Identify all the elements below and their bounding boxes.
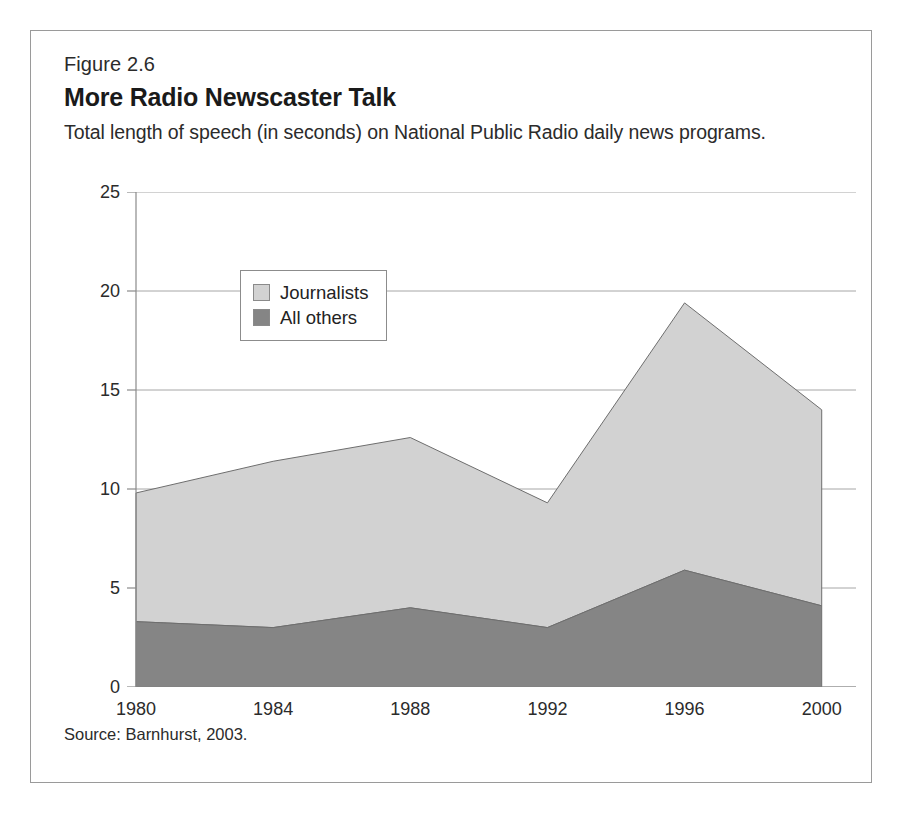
y-axis-tick-label: 25 — [80, 182, 120, 203]
legend-item-journalists[interactable]: Journalists — [253, 280, 368, 305]
figure-frame: Figure 2.6 More Radio Newscaster Talk To… — [30, 30, 872, 783]
y-axis-tick-label: 0 — [80, 677, 120, 698]
chart-plot-area: 0510152025198019841988199219962000 — [106, 192, 856, 687]
y-axis-tick-label: 15 — [80, 380, 120, 401]
x-axis-tick-label: 2000 — [782, 699, 862, 720]
legend-label-journalists: Journalists — [280, 282, 368, 304]
x-axis-tick-label: 1996 — [645, 699, 725, 720]
figure-source: Source: Barnhurst, 2003. — [64, 725, 247, 744]
y-axis-tick-label: 5 — [80, 578, 120, 599]
legend-swatch-all-others — [253, 309, 270, 326]
stacked-area-chart — [106, 192, 856, 687]
figure-number: Figure 2.6 — [64, 53, 155, 76]
figure-title: More Radio Newscaster Talk — [64, 83, 396, 112]
x-axis-tick-label: 1992 — [507, 699, 587, 720]
figure-subtitle: Total length of speech (in seconds) on N… — [64, 121, 766, 144]
legend-item-all-others[interactable]: All others — [253, 305, 368, 330]
x-axis-tick-label: 1980 — [96, 699, 176, 720]
legend-swatch-journalists — [253, 284, 270, 301]
x-axis-tick-label: 1984 — [233, 699, 313, 720]
y-axis-tick-label: 20 — [80, 281, 120, 302]
y-axis-tick-label: 10 — [80, 479, 120, 500]
x-axis-tick-label: 1988 — [370, 699, 450, 720]
chart-legend: Journalists All others — [240, 270, 387, 341]
legend-label-all-others: All others — [280, 307, 357, 329]
